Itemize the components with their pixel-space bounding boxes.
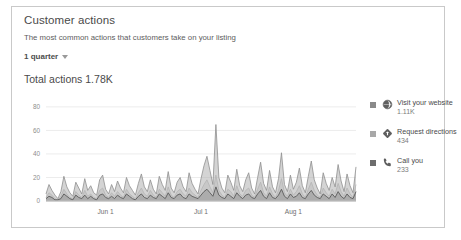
legend-swatch	[370, 102, 376, 108]
legend-item-request-directions[interactable]: Request directions 434	[370, 128, 450, 145]
chart-legend: Visit your website 1.11K Request directi…	[370, 99, 450, 186]
screenshot-root: Customer actions The most common actions…	[0, 0, 461, 240]
legend-item-label: Call you	[397, 157, 423, 165]
legend-item-label: Request directions	[397, 128, 457, 136]
svg-text:0: 0	[36, 197, 40, 204]
svg-text:80: 80	[33, 103, 41, 110]
directions-icon	[382, 128, 393, 139]
svg-text:Jun 1: Jun 1	[98, 208, 114, 215]
svg-text:40: 40	[33, 150, 41, 157]
legend-item-value: 1.11K	[397, 108, 453, 116]
phone-icon	[382, 157, 393, 168]
page-title: Customer actions	[24, 14, 115, 26]
legend-item-label: Visit your website	[397, 99, 453, 107]
legend-item-call-you[interactable]: Call you 233	[370, 157, 450, 174]
globe-icon	[382, 99, 393, 110]
legend-text: Call you 233	[397, 157, 423, 174]
svg-text:Jul 1: Jul 1	[194, 208, 208, 215]
svg-text:20: 20	[33, 174, 41, 181]
legend-text: Request directions 434	[397, 128, 457, 145]
legend-swatch	[370, 160, 376, 166]
svg-text:60: 60	[33, 127, 41, 134]
area-chart-svg: 020406080Jun 1Jul 1Aug 1	[20, 95, 360, 223]
legend-item-value: 434	[397, 137, 457, 145]
legend-swatch	[370, 131, 376, 137]
period-dropdown-label: 1 quarter	[24, 52, 58, 61]
customer-actions-chart: 020406080Jun 1Jul 1Aug 1	[20, 95, 360, 223]
legend-item-visit-your-website[interactable]: Visit your website 1.11K	[370, 99, 450, 116]
customer-actions-card: Customer actions The most common actions…	[11, 6, 445, 228]
total-actions-label: Total actions 1.78K	[24, 73, 113, 85]
card-subtitle: The most common actions that customers t…	[24, 33, 236, 42]
svg-text:Aug 1: Aug 1	[285, 208, 303, 216]
period-dropdown[interactable]: 1 quarter	[24, 52, 68, 61]
chevron-down-icon	[62, 55, 68, 59]
legend-text: Visit your website 1.11K	[397, 99, 453, 116]
legend-item-value: 233	[397, 166, 423, 174]
